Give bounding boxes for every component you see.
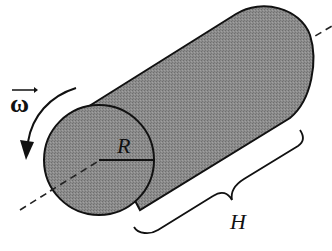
height-label: H <box>229 209 247 234</box>
arrowhead-icon <box>20 140 34 160</box>
svg-text:ω: ω <box>10 89 29 118</box>
radius-label: R <box>116 133 131 158</box>
cylinder-diagram: R ω H <box>0 0 332 251</box>
omega-label: ω <box>10 87 38 118</box>
